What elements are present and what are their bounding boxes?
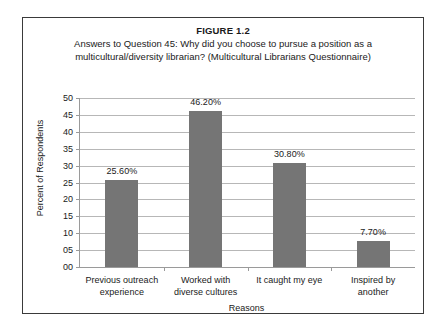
x-tick-mark xyxy=(331,267,332,271)
x-category-label-line: Previous outreach xyxy=(74,274,170,286)
y-tick-mark xyxy=(76,166,80,167)
y-tick-mark xyxy=(76,132,80,133)
bar-value-label: 46.20% xyxy=(171,97,241,107)
bar xyxy=(273,163,306,267)
y-tick-mark xyxy=(76,267,80,268)
y-tick-label: 20 xyxy=(63,194,73,204)
x-category-label-line: another xyxy=(325,286,421,298)
y-tick-mark xyxy=(76,199,80,200)
figure-caption-line-2: multicultural/diversity librarian? (Mult… xyxy=(23,50,423,63)
x-category-label: Inspired byanother xyxy=(325,274,421,298)
y-tick-label: 30 xyxy=(63,161,73,171)
bar xyxy=(105,180,138,267)
figure-caption-line-1: Answers to Question 45: Why did you choo… xyxy=(23,37,423,50)
bar xyxy=(189,111,222,267)
x-axis-title: Reasons xyxy=(79,303,414,313)
y-tick-label: 40 xyxy=(63,127,73,137)
bar-chart: Percent of Respondents 00051015202530354… xyxy=(23,70,425,315)
y-tick-mark xyxy=(76,183,80,184)
x-category-label-line: It caught my eye xyxy=(241,274,337,286)
y-tick-label: 15 xyxy=(63,211,73,221)
y-tick-label: 25 xyxy=(63,178,73,188)
gridline xyxy=(80,132,415,133)
bar xyxy=(357,241,390,267)
x-category-label: Worked withdiverse cultures xyxy=(158,274,254,298)
y-axis-title: Percent of Respondents xyxy=(35,103,45,233)
y-tick-label: 45 xyxy=(63,110,73,120)
gridline xyxy=(80,115,415,116)
y-tick-label: 00 xyxy=(63,262,73,272)
x-category-label-line: diverse cultures xyxy=(158,286,254,298)
bar-value-label: 7.70% xyxy=(338,227,408,237)
figure-caption: FIGURE 1.2 Answers to Question 45: Why d… xyxy=(23,24,423,63)
x-category-label-line: Inspired by xyxy=(325,274,421,286)
x-category-label-line: Worked with xyxy=(158,274,254,286)
y-tick-mark xyxy=(76,149,80,150)
x-category-label: Previous outreachexperience xyxy=(74,274,170,298)
figure-frame: FIGURE 1.2 Answers to Question 45: Why d… xyxy=(22,17,424,314)
gridline xyxy=(80,98,415,99)
y-tick-label: 10 xyxy=(63,228,73,238)
x-tick-mark xyxy=(248,267,249,271)
y-tick-label: 35 xyxy=(63,144,73,154)
y-tick-label: 50 xyxy=(63,93,73,103)
y-tick-mark xyxy=(76,250,80,251)
y-tick-mark xyxy=(76,233,80,234)
x-tick-mark xyxy=(164,267,165,271)
y-tick-mark xyxy=(76,98,80,99)
bar-value-label: 30.80% xyxy=(254,149,324,159)
figure-number: FIGURE 1.2 xyxy=(23,24,423,37)
y-tick-mark xyxy=(76,115,80,116)
plot-area: 000510152025303540455025.60%Previous out… xyxy=(79,98,415,268)
y-tick-label: 05 xyxy=(63,245,73,255)
bar-value-label: 25.60% xyxy=(87,166,157,176)
gridline xyxy=(80,149,415,150)
x-category-label: It caught my eye xyxy=(241,274,337,286)
x-category-label-line: experience xyxy=(74,286,170,298)
y-tick-mark xyxy=(76,216,80,217)
